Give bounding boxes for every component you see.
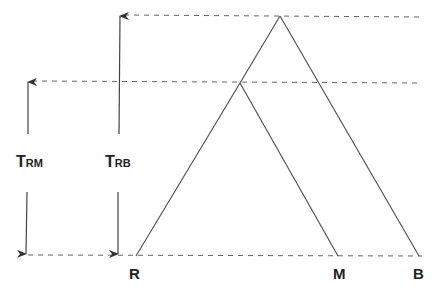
trm-label: TRM [16, 153, 43, 170]
trb-label: TRB [105, 153, 131, 170]
trm-arrow-down-icon [26, 192, 27, 254]
leaf-label-b: B [413, 265, 424, 282]
trb-arrow-up-icon [119, 16, 120, 134]
branch-rm-to-m [240, 83, 338, 256]
baseline-dashed-line [28, 255, 422, 256]
branch-root-to-b [280, 16, 419, 256]
leaf-label-r: R [129, 265, 140, 282]
tree-diagram: TRM TRB R M B [0, 0, 438, 287]
branch-root-to-rm [240, 16, 280, 83]
branch-rm-to-r [136, 83, 240, 256]
rm-time-dashed-line [32, 81, 422, 83]
root-time-dashed-line [124, 15, 422, 17]
leaf-label-m: M [333, 265, 346, 282]
